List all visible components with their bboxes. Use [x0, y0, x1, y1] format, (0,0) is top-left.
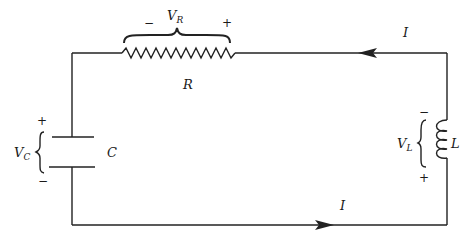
capacitor-voltage-label: VC — [14, 146, 30, 162]
capacitor-voltage-brace — [36, 132, 44, 173]
inductor-plus-sign: + — [419, 172, 429, 184]
resistor-plus-sign: + — [222, 17, 232, 29]
resistor-label: R — [183, 78, 193, 91]
rlc-circuit-diagram: VR − + R + VC − C − VL + L I I — [0, 0, 465, 246]
resistor-voltage-brace — [124, 28, 230, 43]
circuit-wiring — [0, 0, 465, 246]
inductor-voltage-brace — [418, 120, 426, 167]
current-label-top: I — [403, 26, 408, 39]
inductor-symbol — [437, 120, 448, 158]
inductor-label: L — [451, 137, 460, 150]
resistor-voltage-label: VR — [167, 9, 183, 25]
inductor-minus-sign: − — [419, 106, 429, 118]
inductor-voltage-label: VL — [397, 137, 412, 153]
current-label-bottom: I — [340, 199, 345, 212]
resistor-symbol — [122, 48, 235, 58]
capacitor-label: C — [107, 146, 117, 159]
capacitor-minus-sign: − — [38, 175, 48, 187]
resistor-minus-sign: − — [144, 17, 154, 29]
capacitor-plus-sign: + — [37, 115, 47, 127]
